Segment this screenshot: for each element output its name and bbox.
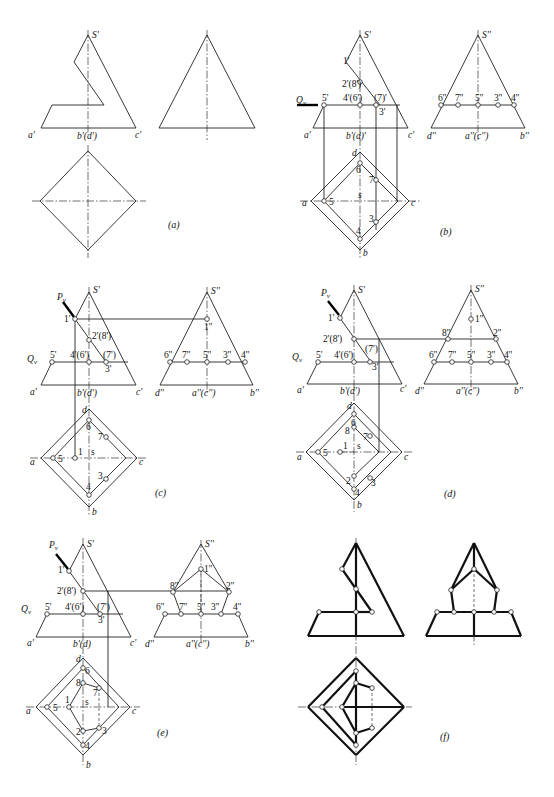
intersection-point-icon bbox=[352, 412, 357, 417]
visible-outline bbox=[342, 543, 356, 569]
intersection-point-icon bbox=[322, 199, 327, 204]
point-label: 1'' bbox=[204, 564, 212, 574]
intersection-point-icon bbox=[316, 360, 321, 365]
point-label: 1' bbox=[58, 565, 65, 575]
point-label: b'(d') bbox=[340, 386, 360, 397]
point-label: S' bbox=[364, 30, 372, 40]
point-label: 2'(8') bbox=[342, 79, 361, 90]
panel-caption: (b) bbox=[440, 226, 452, 238]
point-label: 7'' bbox=[448, 350, 456, 360]
point-label: 2'(8') bbox=[57, 586, 76, 597]
point-label: 6'' bbox=[156, 602, 164, 612]
point-label: c bbox=[411, 198, 416, 208]
intersection-point-icon bbox=[352, 474, 357, 479]
edge-line bbox=[74, 62, 104, 105]
panel-caption: (a) bbox=[168, 219, 180, 231]
point-label: c' bbox=[130, 638, 137, 648]
edge-line bbox=[88, 35, 136, 128]
visible-outline bbox=[474, 543, 497, 590]
edge-line bbox=[307, 362, 318, 384]
point-label: (7') bbox=[365, 344, 378, 355]
point-label: b'' bbox=[245, 639, 255, 649]
point-label: 7'' bbox=[179, 602, 187, 612]
intersection-point-icon bbox=[219, 612, 224, 617]
point-label: 2 bbox=[346, 476, 351, 486]
point-label: c bbox=[404, 452, 409, 462]
visible-outline bbox=[451, 590, 454, 612]
point-label: Pv bbox=[320, 288, 331, 300]
point-label: 1' bbox=[328, 313, 335, 323]
point-label: d'' bbox=[415, 386, 425, 396]
edge-line bbox=[41, 105, 52, 128]
intersection-point-icon bbox=[492, 610, 497, 615]
intersection-point-icon bbox=[370, 726, 375, 731]
intersection-point-icon bbox=[476, 103, 481, 108]
point-label: 4'' bbox=[511, 93, 519, 103]
point-label: 4 bbox=[86, 482, 91, 492]
visible-outline bbox=[474, 569, 497, 590]
intersection-point-icon bbox=[472, 567, 477, 572]
intersection-point-icon bbox=[163, 612, 168, 617]
point-label: a''(c'') bbox=[465, 131, 488, 142]
edge-line bbox=[160, 292, 207, 385]
edge-line bbox=[221, 592, 229, 614]
point-label: 7'' bbox=[182, 350, 190, 360]
edge-line bbox=[74, 35, 88, 62]
point-label: 5'' bbox=[197, 602, 205, 612]
edge-line bbox=[354, 403, 402, 452]
point-label: s bbox=[358, 190, 362, 200]
point-label: 5 bbox=[53, 703, 58, 713]
point-label: (7)' bbox=[374, 93, 387, 104]
point-label: c bbox=[139, 457, 144, 467]
intersection-point-icon bbox=[354, 731, 359, 736]
point-label: 2 bbox=[76, 727, 81, 737]
point-label: Qv bbox=[27, 354, 38, 366]
edge-line bbox=[207, 35, 255, 128]
point-label: 1' bbox=[64, 314, 71, 324]
point-label: s bbox=[357, 441, 361, 451]
edge-line bbox=[88, 151, 136, 201]
point-label: S'' bbox=[205, 539, 215, 549]
panel-d: PvS'1'2'(8')Qv5'4'(6')(7')3'a'b'(d')c'S'… bbox=[292, 284, 524, 512]
intersection-point-icon bbox=[45, 612, 50, 617]
intersection-point-icon bbox=[370, 686, 375, 691]
intersection-point-icon bbox=[354, 610, 359, 615]
edge-line bbox=[89, 458, 137, 507]
visible-outline bbox=[308, 612, 319, 636]
panel-c: PvS'1'2'(8')Qv5'4'(6')(7')3'a'b'(d')c'S'… bbox=[27, 285, 260, 517]
point-label: S'' bbox=[211, 286, 221, 296]
point-label: 3 bbox=[371, 478, 376, 488]
intersection-point-icon bbox=[45, 705, 50, 710]
edge-line bbox=[41, 458, 89, 507]
visible-outline bbox=[451, 543, 474, 590]
intersection-point-icon bbox=[199, 567, 204, 572]
intersection-point-icon bbox=[104, 435, 109, 440]
edge-line bbox=[88, 201, 136, 250]
point-label: 6 bbox=[85, 666, 90, 676]
point-label: c' bbox=[135, 130, 142, 140]
point-label: 3' bbox=[379, 107, 386, 117]
intersection-point-icon bbox=[67, 705, 72, 710]
point-label: 6'' bbox=[164, 350, 172, 360]
edge-line bbox=[36, 614, 47, 637]
edge-line bbox=[360, 163, 398, 201]
point-label: a''(c'') bbox=[456, 386, 479, 397]
visible-outline bbox=[426, 612, 437, 636]
point-label: d'' bbox=[427, 131, 437, 141]
edge-line bbox=[313, 105, 324, 128]
edge-line bbox=[360, 201, 398, 239]
point-label: d bbox=[82, 405, 87, 415]
intersection-point-icon bbox=[73, 456, 78, 461]
edge-line bbox=[40, 201, 88, 250]
point-label: 1 bbox=[78, 447, 83, 457]
intersection-point-icon bbox=[505, 360, 510, 365]
point-label: 5 bbox=[323, 448, 328, 458]
point-label: 4 bbox=[356, 226, 361, 236]
point-label: 6 bbox=[86, 422, 91, 432]
intersection-point-icon bbox=[50, 360, 55, 365]
intersection-point-icon bbox=[472, 610, 477, 615]
edge-line bbox=[83, 544, 131, 637]
visible-outline bbox=[356, 658, 404, 707]
visible-outline bbox=[511, 612, 521, 636]
intersection-point-icon bbox=[354, 669, 359, 674]
